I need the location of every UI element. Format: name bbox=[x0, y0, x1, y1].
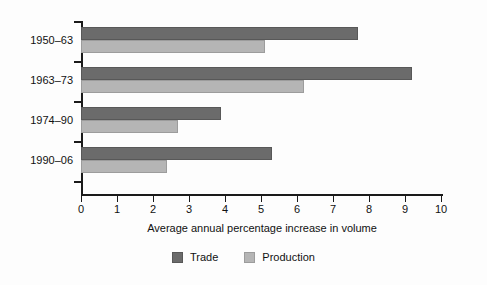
x-axis-tick bbox=[189, 196, 190, 202]
x-axis-tick-label: 1 bbox=[105, 203, 129, 215]
chart-container: 1950–63 1963–73 1974–90 1990–06 01234567… bbox=[0, 0, 487, 285]
x-axis-tick bbox=[261, 196, 262, 202]
bar-trade bbox=[81, 107, 221, 120]
x-axis-tick bbox=[369, 196, 370, 202]
y-axis-tick-label: 1990–06 bbox=[9, 154, 73, 166]
x-axis-tick-label: 5 bbox=[249, 203, 273, 215]
y-axis-tick bbox=[74, 181, 81, 183]
x-axis-tick-label: 8 bbox=[357, 203, 381, 215]
bar-production bbox=[81, 120, 178, 133]
x-axis-tick-label: 9 bbox=[393, 203, 417, 215]
legend-swatch-production bbox=[244, 252, 255, 263]
x-axis-tick bbox=[405, 196, 406, 202]
y-axis-tick-label: 1963–73 bbox=[9, 74, 73, 86]
x-axis-tick bbox=[153, 196, 154, 202]
x-axis-tick bbox=[333, 196, 334, 202]
x-axis-tick-label: 6 bbox=[285, 203, 309, 215]
x-axis-tick-label: 4 bbox=[213, 203, 237, 215]
x-axis-tick bbox=[81, 196, 82, 202]
bar-trade bbox=[81, 147, 272, 160]
legend-item-production: Production bbox=[244, 251, 315, 263]
y-axis-tick bbox=[74, 141, 81, 143]
x-axis-title: Average annual percentage increase in vo… bbox=[81, 222, 443, 234]
x-axis-tick-label: 3 bbox=[177, 203, 201, 215]
x-axis-tick-label: 0 bbox=[69, 203, 93, 215]
bar-production bbox=[81, 160, 167, 173]
x-axis-line bbox=[81, 194, 443, 196]
y-axis-tick bbox=[74, 21, 81, 23]
bar-production bbox=[81, 40, 265, 53]
x-axis-tick-label: 10 bbox=[429, 203, 453, 215]
y-axis-tick bbox=[74, 61, 81, 63]
x-axis-tick bbox=[117, 196, 118, 202]
plot-area bbox=[81, 26, 441, 191]
bar-trade bbox=[81, 27, 358, 40]
legend-label-production: Production bbox=[262, 251, 315, 263]
y-axis-tick-label: 1974–90 bbox=[9, 114, 73, 126]
y-axis-tick-label: 1950–63 bbox=[9, 34, 73, 46]
x-axis-tick bbox=[297, 196, 298, 202]
bar-production bbox=[81, 80, 304, 93]
x-axis-tick bbox=[441, 196, 442, 202]
y-axis-tick bbox=[74, 101, 81, 103]
x-axis-tick-label: 2 bbox=[141, 203, 165, 215]
x-axis-tick bbox=[225, 196, 226, 202]
chart-legend: Trade Production bbox=[0, 251, 487, 263]
bar-trade bbox=[81, 67, 412, 80]
legend-label-trade: Trade bbox=[190, 251, 218, 263]
x-axis-tick-label: 7 bbox=[321, 203, 345, 215]
legend-swatch-trade bbox=[172, 252, 183, 263]
legend-item-trade: Trade bbox=[172, 251, 218, 263]
y-axis-category-labels: 1950–63 1963–73 1974–90 1990–06 bbox=[6, 26, 73, 191]
